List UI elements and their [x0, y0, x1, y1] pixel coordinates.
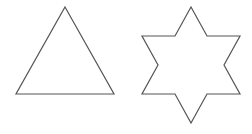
diagram-canvas — [0, 0, 252, 134]
star-shape — [142, 7, 240, 123]
triangle-shape — [16, 7, 114, 94]
